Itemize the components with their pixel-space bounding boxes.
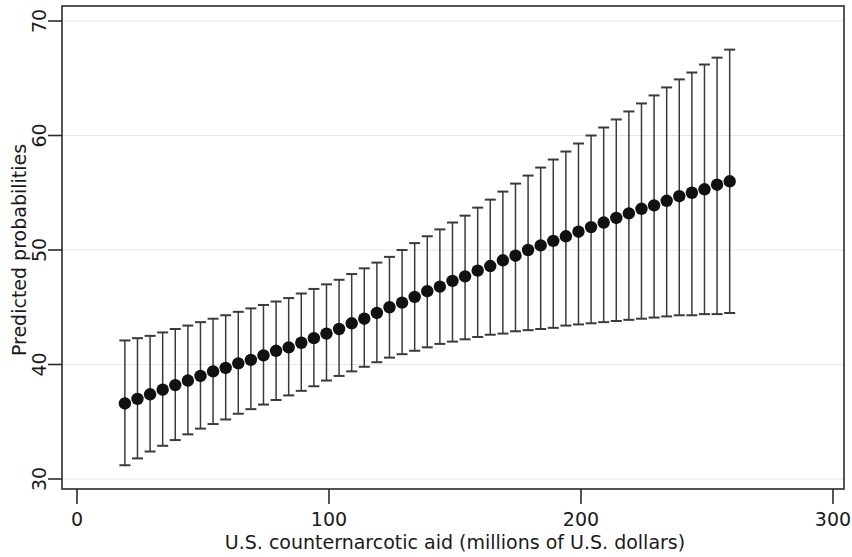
x-axis-title: U.S. counternarcotic aid (millions of U.…	[225, 531, 685, 553]
data-markers-group	[119, 175, 736, 410]
x-tick-label: 0	[71, 508, 83, 530]
x-tick-label: 300	[815, 508, 851, 530]
x-tick-label: 200	[563, 508, 599, 530]
errorbars-group	[119, 50, 735, 466]
x-tick-label: 100	[311, 508, 347, 530]
x-axis-ticks: 0100200300	[71, 489, 851, 530]
y-tick-label: 50	[28, 238, 50, 262]
y-tick-label: 40	[28, 352, 50, 376]
y-tick-label: 60	[28, 123, 50, 147]
chart-container: 0100200300 3040506070 U.S. counternarcot…	[0, 0, 852, 557]
predicted-probabilities-chart: 0100200300 3040506070 U.S. counternarcot…	[0, 0, 852, 557]
y-axis-ticks: 3040506070	[28, 9, 62, 491]
y-tick-label: 70	[28, 9, 50, 33]
y-tick-label: 30	[28, 467, 50, 491]
y-axis-title: Predicted probabilities	[8, 144, 30, 356]
